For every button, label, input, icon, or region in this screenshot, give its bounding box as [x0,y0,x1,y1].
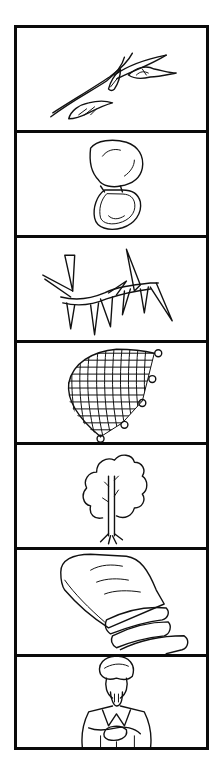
panel-turbaned-man: man in turban and robe [17,657,206,747]
picture-card-strip: twig with buds open clam shell [14,25,209,750]
panel-thorn-branch: thorny branch [17,238,206,343]
panel-clam-shell: open clam shell [17,133,206,238]
turbaned-man-icon [17,657,206,747]
fishing-net-icon [17,343,206,443]
panel-twig: twig with buds [17,28,206,133]
bread-loaf-icon [17,550,206,654]
thorn-branch-icon [17,239,206,339]
panel-fishing-net: fishing net with floats [17,343,206,445]
panel-bread-loaf: sliced loaf of bread [17,550,206,657]
clam-shell-icon [17,134,206,234]
panel-tree: tree [17,445,206,550]
tree-icon [17,446,206,546]
twig-icon [17,29,206,129]
